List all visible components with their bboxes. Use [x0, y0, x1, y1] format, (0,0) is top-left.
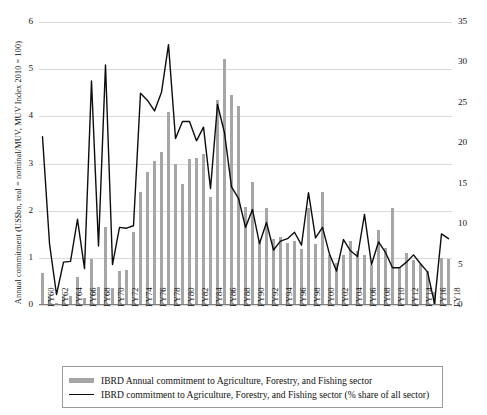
- y-right-tick-25: 25: [458, 97, 476, 107]
- x-tick-FY66: FY66: [88, 287, 98, 307]
- x-tick-FY98: FY98: [312, 287, 322, 307]
- line-series: [39, 22, 452, 305]
- x-tick-FY70: FY70: [116, 287, 126, 307]
- legend-item-bars: IBRD Annual commitment to Agriculture, F…: [69, 375, 436, 386]
- x-tick-FY90: FY90: [256, 287, 266, 307]
- x-tick-FY92: FY92: [270, 287, 280, 307]
- x-tick-FY00: FY00: [326, 287, 336, 307]
- chart-figure: Annual commitment (US$bn, real = nominal…: [0, 0, 487, 415]
- y-left-tick-1: 1: [17, 252, 33, 262]
- legend-label-bars: IBRD Annual commitment to Agriculture, F…: [101, 375, 372, 386]
- x-tick-FY64: FY64: [74, 287, 84, 307]
- x-tick-FY06: FY06: [368, 287, 378, 307]
- legend-label-line: IBRD commitment to Agriculture, Forestry…: [101, 389, 429, 400]
- x-tick-FY12: FY12: [410, 287, 420, 307]
- y-left-tick-0: 0: [17, 299, 33, 309]
- y-right-tick-5: 5: [458, 259, 476, 269]
- x-tick-FY78: FY78: [172, 287, 182, 307]
- y-left-tick-3: 3: [17, 158, 33, 168]
- line-swatch-icon: [69, 394, 94, 395]
- y-left-tick-6: 6: [17, 16, 33, 26]
- y-right-tick-30: 30: [458, 56, 476, 66]
- x-tick-FY02: FY02: [340, 287, 350, 307]
- y-left-tick-5: 5: [17, 63, 33, 73]
- x-tick-FY84: FY84: [214, 287, 224, 307]
- legend-item-line: IBRD commitment to Agriculture, Forestry…: [69, 389, 436, 400]
- x-tick-FY62: FY62: [60, 287, 70, 307]
- x-tick-FY72: FY72: [130, 287, 140, 307]
- x-tick-FY74: FY74: [144, 287, 154, 307]
- x-tick-FY96: FY96: [298, 287, 308, 307]
- x-tick-FY68: FY68: [102, 287, 112, 307]
- x-tick-FY82: FY82: [200, 287, 210, 307]
- x-tick-FY86: FY86: [228, 287, 238, 307]
- x-tick-FY88: FY88: [242, 287, 252, 307]
- y-right-tick-10: 10: [458, 218, 476, 228]
- x-tick-FY14: FY14: [424, 287, 434, 307]
- plot-area: [39, 22, 452, 305]
- y-right-tick-15: 15: [458, 178, 476, 188]
- x-tick-FY60: FY60: [46, 287, 56, 307]
- x-tick-FY80: FY80: [186, 287, 196, 307]
- chart-legend: IBRD Annual commitment to Agriculture, F…: [62, 366, 443, 408]
- y-left-tick-2: 2: [17, 205, 33, 215]
- y-left-tick-4: 4: [17, 110, 33, 120]
- x-tick-FY76: FY76: [158, 287, 168, 307]
- x-tick-FY10: FY10: [396, 287, 406, 307]
- line-path: [43, 45, 449, 304]
- x-tick-FY18: FY18: [452, 287, 462, 307]
- y-right-tick-20: 20: [458, 137, 476, 147]
- y-right-tick-35: 35: [458, 16, 476, 26]
- x-tick-FY94: FY94: [284, 287, 294, 307]
- x-axis-labels: FY60FY62FY64FY66FY68FY70FY72FY74FY76FY78…: [39, 307, 452, 353]
- x-tick-FY08: FY08: [382, 287, 392, 307]
- x-tick-FY16: FY16: [438, 287, 448, 307]
- bar-swatch-icon: [69, 378, 94, 383]
- x-tick-FY04: FY04: [354, 287, 364, 307]
